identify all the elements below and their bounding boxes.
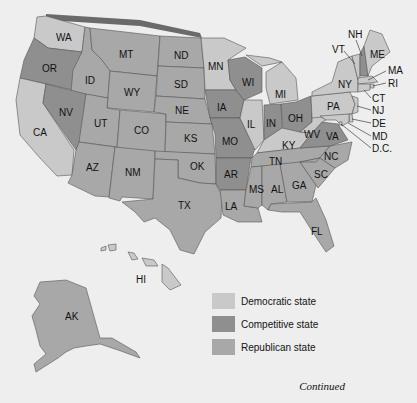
legend-label: Democratic state: [241, 296, 316, 307]
label-NC: NC: [324, 152, 338, 162]
label-OK: OK: [190, 162, 204, 172]
label-NH: NH: [348, 30, 362, 40]
label-KY: KY: [282, 141, 295, 151]
legend-item-democratic: Democratic state: [212, 293, 318, 309]
state-CT[interactable]: [358, 84, 370, 92]
label-DE: DE: [372, 119, 386, 129]
label-IN: IN: [266, 119, 276, 129]
legend-label: Republican state: [241, 342, 316, 353]
label-AZ: AZ: [86, 163, 99, 173]
legend-item-competitive: Competitive state: [212, 316, 318, 332]
state-FL[interactable]: [268, 198, 334, 252]
label-NM: NM: [125, 168, 141, 178]
label-OR: OR: [42, 64, 57, 74]
label-MO: MO: [222, 137, 238, 147]
label-HI: HI: [136, 275, 146, 285]
label-MT: MT: [119, 50, 133, 60]
label-WI: WI: [242, 78, 254, 88]
label-NV: NV: [59, 108, 73, 118]
label-DC: D.C.: [372, 144, 392, 154]
label-GA: GA: [292, 181, 306, 191]
label-NE: NE: [175, 106, 189, 116]
label-MA: MA: [388, 66, 403, 76]
label-AK: AK: [65, 312, 78, 322]
label-ME: ME: [370, 50, 385, 60]
label-KS: KS: [184, 134, 197, 144]
label-NY: NY: [338, 80, 352, 90]
label-PA: PA: [327, 102, 340, 112]
label-MI: MI: [275, 90, 286, 100]
label-TN: TN: [269, 157, 282, 167]
label-CO: CO: [134, 126, 149, 136]
swatch-competitive: [212, 316, 235, 332]
state-RI[interactable]: [370, 84, 374, 88]
label-UT: UT: [94, 119, 107, 129]
label-RI: RI: [388, 79, 398, 89]
swatch-democratic: [212, 293, 235, 309]
label-MN: MN: [208, 62, 224, 72]
label-VA: VA: [326, 132, 339, 142]
legend-label: Competitive state: [241, 319, 318, 330]
label-NJ: NJ: [372, 106, 384, 116]
label-LA: LA: [225, 202, 237, 212]
continued-note: Continued: [299, 380, 345, 392]
label-IA: IA: [217, 103, 226, 113]
label-FL: FL: [311, 227, 323, 237]
state-NY[interactable]: [312, 56, 358, 96]
label-AR: AR: [224, 170, 238, 180]
label-WV: WV: [304, 130, 320, 140]
swatch-republican: [212, 339, 235, 355]
label-ND: ND: [174, 51, 188, 61]
label-SD: SD: [174, 80, 188, 90]
label-OH: OH: [288, 114, 303, 124]
label-MD: MD: [372, 132, 388, 142]
label-WY: WY: [124, 88, 140, 98]
legend-item-republican: Republican state: [212, 339, 318, 355]
legend: Democratic state Competitive state Repub…: [212, 293, 318, 362]
label-ID: ID: [85, 76, 95, 86]
state-DE[interactable]: [349, 114, 353, 122]
label-VT: VT: [332, 45, 345, 55]
label-SC: SC: [314, 170, 328, 180]
label-IL: IL: [247, 120, 255, 130]
label-WA: WA: [56, 33, 72, 43]
label-TX: TX: [178, 201, 191, 211]
state-DC[interactable]: [339, 122, 342, 125]
state-MA[interactable]: [358, 76, 378, 84]
label-CT: CT: [372, 94, 385, 104]
label-CA: CA: [33, 128, 47, 138]
state-AK[interactable]: [32, 280, 140, 372]
label-AL: AL: [271, 185, 283, 195]
label-MS: MS: [249, 185, 264, 195]
